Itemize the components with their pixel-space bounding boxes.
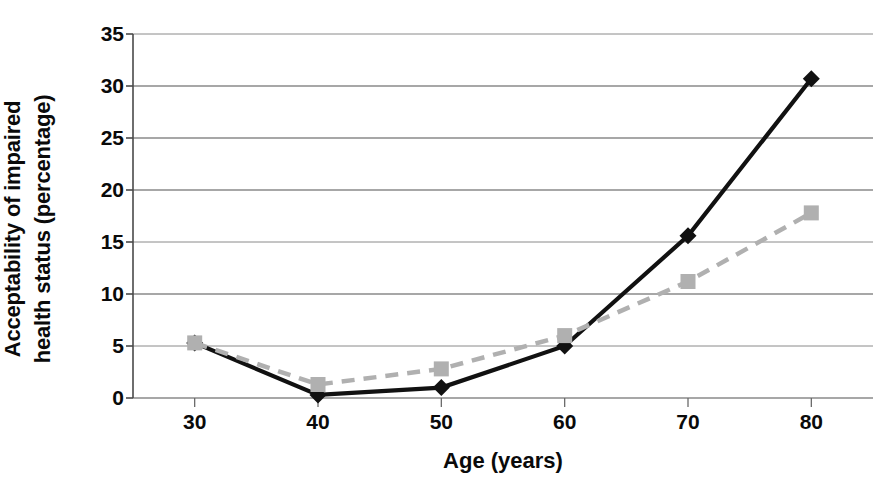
plot-area [0,0,892,497]
data-point-marker-square [681,274,696,289]
series-line-dashed-gray-square [195,213,812,385]
data-point-marker-diamond [433,379,450,396]
data-point-marker-square [557,328,572,343]
data-point-marker-square [187,335,202,350]
series-line-solid-black-diamond [195,79,812,395]
data-point-marker-square [434,361,449,376]
chart-figure: Acceptability of impaired health status … [0,0,892,497]
data-point-marker-square [804,205,819,220]
data-point-marker-square [311,377,326,392]
